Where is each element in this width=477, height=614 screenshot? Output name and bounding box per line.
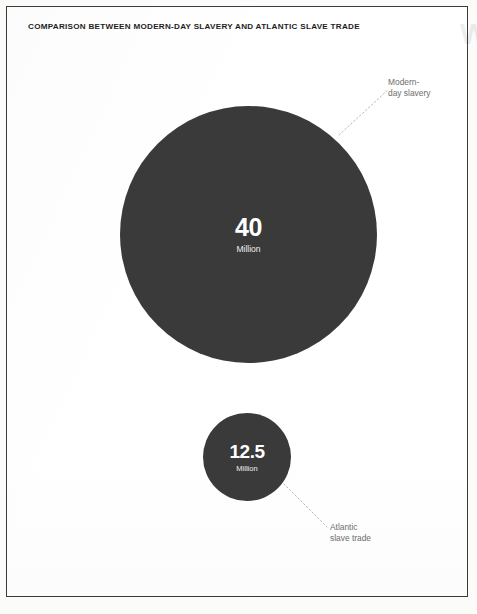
leader-line-atlantic-trade <box>279 479 335 531</box>
bubble-atlantic-trade: 12.5 Million <box>203 413 291 501</box>
bubble-unit-atlantic-trade: Million <box>236 465 257 473</box>
bubble-unit-modern-slavery: Million <box>236 245 260 254</box>
bubble-value-modern-slavery: 40 <box>235 215 262 240</box>
annotation-atlantic-trade: Atlantic slave trade <box>330 522 371 544</box>
bubble-modern-slavery: 40 Million <box>120 106 377 363</box>
page-frame: SHOULD BELOW COMPARISON BETWEEN MODERN-D… <box>6 6 468 597</box>
annotation-modern-slavery: Modern- day slavery <box>388 77 430 99</box>
chart-title: COMPARISON BETWEEN MODERN-DAY SLAVERY AN… <box>28 22 360 31</box>
bubble-value-atlantic-trade: 12.5 <box>230 442 265 461</box>
ghost-bleedthrough-text: SHOULD BELOW <box>459 21 477 49</box>
